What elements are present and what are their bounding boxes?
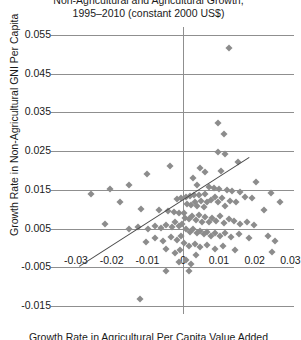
x-axis-label: Growth Rate in Agricultural Per Capita V… (0, 331, 297, 340)
chart-title: Non-Agricultural and Agricultural Growth… (0, 0, 297, 19)
data-point (246, 234, 253, 241)
data-point (136, 296, 143, 303)
plot-area: 0.0550.0450.0350.0250.0150.005-0.005-0.0… (58, 27, 294, 314)
data-point (248, 195, 255, 202)
y-gridline (58, 267, 294, 268)
data-point (250, 221, 257, 228)
data-point (265, 232, 272, 239)
data-point (231, 246, 238, 253)
y-tick-mark (51, 35, 58, 36)
data-point (225, 45, 232, 52)
y-tick-mark (51, 74, 58, 75)
data-point (260, 207, 267, 214)
y-gridline (58, 74, 294, 75)
data-point (152, 235, 159, 242)
y-tick-mark (51, 151, 58, 152)
data-point (102, 220, 109, 227)
data-point (162, 245, 169, 252)
x-tick-label: -0.02 (100, 254, 124, 266)
data-point (222, 203, 229, 210)
data-point (215, 148, 222, 155)
y-gridline (58, 229, 294, 230)
y-gridline (58, 151, 294, 152)
y-tick-mark (51, 306, 58, 307)
data-point (272, 238, 279, 245)
y-gridline (58, 190, 294, 191)
y-axis-label: Growth Rate in Non-Agricultural GNI Per … (8, 16, 20, 236)
data-point (211, 245, 218, 252)
data-point (215, 120, 222, 127)
y-tick-label: 0.015 (25, 183, 51, 195)
y-tick-mark (51, 267, 58, 268)
y-gridline (58, 35, 294, 36)
chart-title-line-2: 1995–2010 (constant 2000 US$) (0, 7, 297, 20)
data-point (145, 225, 152, 232)
x-tick-label: -0.03 (64, 254, 88, 266)
y-tick-label: 0.045 (25, 67, 51, 79)
data-point (160, 238, 167, 245)
data-point (220, 130, 227, 137)
data-point (243, 218, 250, 225)
y-tick-label: 0.005 (25, 222, 51, 234)
y-tick-label: -0.005 (21, 260, 51, 272)
data-point (202, 190, 209, 197)
y-tick-mark (51, 190, 58, 191)
y-gridline (58, 306, 294, 307)
data-point (190, 175, 197, 182)
data-point (116, 198, 123, 205)
y-tick-mark (51, 229, 58, 230)
x-tick-label: -0.01 (135, 254, 159, 266)
x-tick-label: 0.02 (244, 254, 264, 266)
data-point (137, 205, 144, 212)
data-point (268, 248, 275, 255)
y-gridline (58, 112, 294, 113)
y-tick-label: -0.015 (21, 299, 51, 311)
data-point (125, 181, 132, 188)
data-point (166, 162, 173, 169)
data-point (220, 243, 227, 250)
x-tick-label: 0.03 (280, 254, 300, 266)
y-tick-label: 0.055 (25, 28, 51, 40)
data-point (142, 239, 149, 246)
y-axis-line (183, 27, 184, 314)
data-point (277, 198, 284, 205)
data-point (233, 199, 240, 206)
data-point (87, 190, 94, 197)
data-point (215, 186, 222, 193)
data-point (235, 231, 242, 238)
y-tick-mark (51, 112, 58, 113)
y-tick-label: 0.035 (25, 105, 51, 117)
data-point (204, 241, 211, 248)
data-point (192, 252, 199, 259)
data-point (228, 234, 235, 241)
x-tick-label: 0.01 (209, 254, 229, 266)
data-point (106, 186, 113, 193)
data-point (252, 179, 259, 186)
data-point (241, 193, 248, 200)
data-point (144, 171, 151, 178)
y-tick-label: 0.025 (25, 144, 51, 156)
